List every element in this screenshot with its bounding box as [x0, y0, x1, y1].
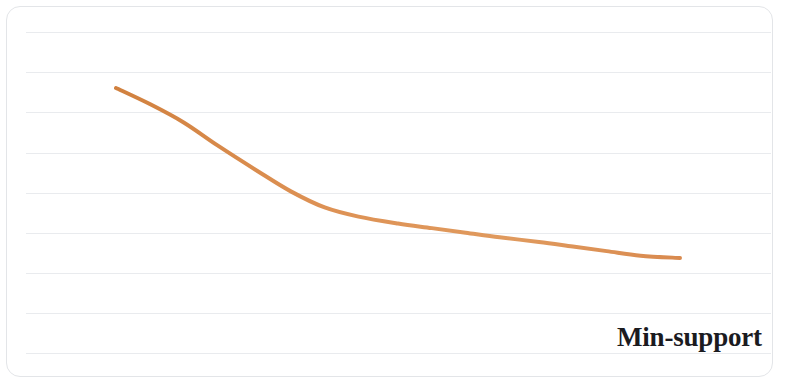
x-axis-label: Min-support: [617, 322, 762, 353]
series-line-runtime: [116, 88, 680, 258]
chart-figure: Min-support: [0, 0, 789, 391]
plot-area: Min-support: [0, 0, 789, 391]
